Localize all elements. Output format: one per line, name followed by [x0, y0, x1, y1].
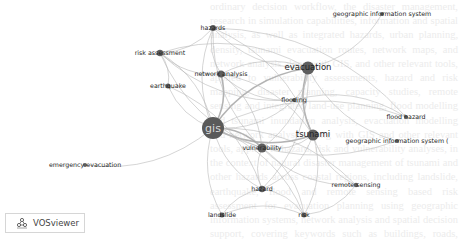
- edge-vulnerability-risk: [262, 148, 304, 215]
- node-label-gis[interactable]: gis: [205, 122, 221, 135]
- vosviewer-logo-icon: [16, 217, 28, 229]
- node-label-tsunami[interactable]: tsunami: [296, 129, 330, 139]
- edge-gis-flood-hazard: [213, 101, 406, 128]
- node-label-network-analysis[interactable]: network analysis: [194, 70, 247, 78]
- edge-evacuation-geographic-information-system: [308, 14, 382, 68]
- node-label-risk-assessment[interactable]: risk assessment: [135, 49, 186, 56]
- labels-layer: gisevacuationtsunamivulnerabilitynetwork…: [49, 10, 449, 218]
- node-label-vulnerability[interactable]: vulnerability: [242, 144, 281, 152]
- node-label-emergency-evacuation[interactable]: emergency evacuation: [49, 161, 121, 169]
- node-label-hazards[interactable]: hazards: [201, 24, 226, 31]
- node-label-hazard[interactable]: hazard: [251, 185, 273, 192]
- node-label-risk[interactable]: risk: [298, 211, 310, 218]
- node-label-earthquake[interactable]: earthquake: [150, 82, 186, 90]
- node-label-flood-hazard[interactable]: flood hazard: [386, 113, 425, 120]
- network-graph: gisevacuationtsunamivulnerabilitynetwork…: [0, 0, 462, 241]
- vosviewer-badge[interactable]: VOSviewer: [5, 213, 85, 233]
- node-label-geographic-information-system-2[interactable]: geographic information system (: [346, 137, 449, 145]
- edge-gis-landslide: [207, 128, 222, 215]
- edge-tsunami-risk: [304, 135, 318, 215]
- node-label-landslide[interactable]: landslide: [208, 211, 236, 218]
- node-label-evacuation[interactable]: evacuation: [284, 62, 331, 72]
- edge-gis-risk-assessment: [160, 53, 213, 128]
- node-label-remote-sensing[interactable]: remote sensing: [332, 181, 381, 189]
- node-label-geographic-information-system[interactable]: geographic information system: [333, 10, 431, 18]
- vosviewer-label: VOSviewer: [33, 218, 79, 228]
- node-label-flooding[interactable]: flooding: [281, 96, 306, 104]
- edge-risk-remote-sensing: [304, 185, 356, 215]
